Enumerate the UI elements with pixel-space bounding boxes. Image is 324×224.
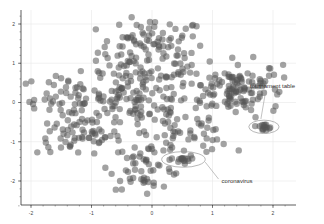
data-point bbox=[67, 143, 73, 149]
data-point bbox=[250, 97, 256, 103]
data-point bbox=[92, 131, 98, 137]
data-point bbox=[171, 60, 177, 66]
data-point bbox=[171, 122, 177, 128]
data-point bbox=[250, 54, 256, 60]
data-point bbox=[48, 101, 54, 107]
data-point bbox=[160, 147, 166, 153]
data-point bbox=[134, 121, 140, 127]
data-point bbox=[183, 26, 189, 32]
data-point bbox=[210, 84, 216, 90]
x-tick-label: 1 bbox=[211, 210, 214, 216]
data-point bbox=[158, 72, 164, 78]
data-point bbox=[93, 26, 99, 32]
data-point bbox=[34, 149, 40, 155]
data-point bbox=[91, 150, 97, 156]
data-point bbox=[210, 127, 216, 133]
data-point bbox=[213, 103, 219, 109]
data-point bbox=[28, 78, 34, 84]
data-point bbox=[64, 132, 70, 138]
data-point bbox=[93, 58, 99, 64]
data-point bbox=[112, 88, 118, 94]
data-point bbox=[44, 120, 50, 126]
data-point bbox=[123, 167, 129, 173]
data-point bbox=[43, 139, 49, 145]
data-point bbox=[137, 112, 143, 118]
data-point bbox=[46, 79, 52, 85]
data-point bbox=[200, 143, 206, 149]
data-point bbox=[155, 162, 161, 168]
data-point bbox=[135, 94, 141, 100]
data-point bbox=[72, 101, 78, 107]
data-point bbox=[229, 55, 235, 61]
data-point bbox=[281, 74, 287, 80]
y-tick-label: 1 bbox=[12, 60, 15, 66]
data-point bbox=[169, 155, 175, 161]
data-point bbox=[131, 58, 137, 64]
data-point bbox=[117, 94, 123, 100]
data-point bbox=[156, 35, 162, 41]
data-point bbox=[248, 90, 254, 96]
data-point bbox=[150, 167, 156, 173]
data-point bbox=[75, 149, 81, 155]
data-point bbox=[226, 83, 232, 89]
data-point bbox=[143, 86, 149, 92]
data-point bbox=[209, 146, 215, 152]
data-point bbox=[113, 186, 119, 192]
data-point bbox=[146, 161, 152, 167]
data-point bbox=[146, 57, 152, 63]
data-point bbox=[108, 97, 114, 103]
data-point bbox=[151, 149, 157, 155]
data-point bbox=[72, 110, 78, 116]
data-point bbox=[72, 90, 78, 96]
data-point bbox=[163, 85, 169, 91]
data-point bbox=[66, 109, 72, 115]
x-tick-label: 0 bbox=[151, 210, 154, 216]
data-point bbox=[102, 44, 108, 50]
data-point bbox=[197, 43, 203, 49]
data-point bbox=[128, 14, 134, 20]
data-point bbox=[144, 191, 150, 197]
data-point bbox=[185, 136, 191, 142]
data-point bbox=[130, 111, 136, 117]
data-point bbox=[62, 139, 68, 145]
data-point bbox=[220, 141, 226, 147]
scatter-points bbox=[23, 14, 288, 197]
data-point bbox=[153, 85, 159, 91]
data-point bbox=[160, 30, 166, 36]
data-point bbox=[76, 119, 82, 125]
data-point bbox=[188, 152, 194, 158]
data-point bbox=[79, 135, 85, 141]
data-point bbox=[58, 88, 64, 94]
data-point bbox=[143, 132, 149, 138]
data-point bbox=[177, 72, 183, 78]
data-point bbox=[193, 71, 199, 77]
annotation-label: coronavirus bbox=[222, 178, 253, 184]
data-point bbox=[57, 107, 63, 113]
data-point bbox=[233, 109, 239, 115]
data-point bbox=[63, 84, 69, 90]
data-point bbox=[111, 103, 117, 109]
data-point bbox=[187, 69, 193, 75]
data-point bbox=[177, 60, 183, 66]
data-point bbox=[180, 83, 186, 89]
data-point bbox=[79, 107, 85, 113]
data-point bbox=[191, 134, 197, 140]
data-point bbox=[65, 117, 71, 123]
data-point bbox=[130, 175, 136, 181]
data-point bbox=[188, 80, 194, 86]
data-point bbox=[128, 78, 134, 84]
data-point bbox=[236, 147, 242, 153]
data-point bbox=[104, 38, 110, 44]
data-point bbox=[68, 123, 74, 129]
data-point bbox=[154, 134, 160, 140]
data-point bbox=[174, 116, 180, 122]
data-point bbox=[248, 107, 254, 113]
data-point bbox=[96, 140, 102, 146]
data-point bbox=[146, 38, 152, 44]
data-point bbox=[259, 122, 265, 128]
data-point bbox=[127, 49, 133, 55]
data-point bbox=[206, 74, 212, 80]
data-point bbox=[146, 32, 152, 38]
data-point bbox=[130, 160, 136, 166]
data-point bbox=[146, 97, 152, 103]
